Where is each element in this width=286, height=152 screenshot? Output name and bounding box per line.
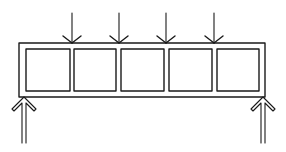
down-arrow-icon	[157, 13, 175, 43]
load-arrows-group	[63, 13, 223, 43]
frame-group	[19, 43, 265, 97]
beam-diagram	[0, 0, 286, 152]
down-arrow-icon	[205, 13, 223, 43]
down-arrow-icon	[63, 13, 81, 43]
panel-2	[74, 49, 116, 91]
up-arrow-icon	[251, 97, 275, 143]
panel-5	[217, 49, 259, 91]
panel-1	[26, 49, 70, 91]
panel-4	[169, 49, 212, 91]
panel-group	[26, 49, 259, 91]
beam-frame	[19, 43, 265, 97]
down-arrow-icon	[110, 13, 128, 43]
support-reaction-arrows-group	[12, 97, 275, 143]
up-arrow-icon	[12, 97, 36, 143]
panel-3	[121, 49, 164, 91]
